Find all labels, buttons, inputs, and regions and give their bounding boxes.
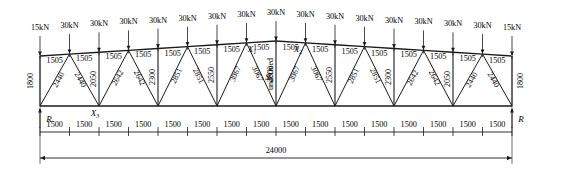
bottom-dimension-label: 1500 bbox=[47, 121, 63, 129]
web-member-label: 2550 bbox=[326, 67, 334, 83]
load-label: 30kN bbox=[414, 18, 432, 26]
load-label: 30kN bbox=[90, 20, 108, 28]
load-label: 30kN bbox=[149, 16, 167, 24]
web-member-label: 2300 bbox=[149, 69, 157, 85]
web-member-label: 2050 bbox=[444, 71, 452, 87]
load-label: 30kN bbox=[326, 13, 344, 21]
end-post-label-right: 1800 bbox=[517, 73, 525, 89]
bottom-dimension-label: 1500 bbox=[430, 121, 446, 129]
top-chord-segment-label: 1505 bbox=[47, 57, 63, 65]
load-label: 30kN bbox=[267, 9, 285, 17]
top-chord-segment-label: 1505 bbox=[165, 49, 181, 57]
load-label: 15kN bbox=[31, 24, 49, 32]
top-chord-segment-label: 1505 bbox=[76, 55, 92, 63]
top-chord-segment-label: 1505 bbox=[224, 46, 240, 54]
load-label: 30kN bbox=[355, 15, 373, 23]
top-chord-segment-label: 1505 bbox=[342, 48, 358, 56]
web-member-label: 2550 bbox=[208, 67, 216, 83]
bottom-dimension-label: 1500 bbox=[489, 121, 505, 129]
load-label: 30kN bbox=[119, 18, 137, 26]
bottom-dimension-label: 1500 bbox=[283, 121, 299, 129]
load-label: 30kN bbox=[444, 20, 462, 28]
top-chord-segment-label: 1505 bbox=[135, 51, 151, 59]
top-chord-segment-label: 1505 bbox=[371, 49, 387, 57]
bottom-dimension-label: 1500 bbox=[253, 121, 269, 129]
total-span-label: 24000 bbox=[266, 147, 286, 155]
web-member-label: 2300 bbox=[385, 69, 393, 85]
bottom-dimension-label: 1500 bbox=[106, 121, 122, 129]
load-label: 30kN bbox=[208, 13, 226, 21]
annotation-x1: X1 bbox=[248, 45, 257, 56]
annotation-x2: X2 bbox=[294, 45, 303, 56]
load-label: 30kN bbox=[385, 16, 403, 24]
top-chord-segment-label: 1505 bbox=[430, 53, 446, 61]
bottom-dimension-label: 1500 bbox=[224, 121, 240, 129]
end-post-label-left: 1800 bbox=[27, 73, 35, 89]
top-chord-segment-label: 1505 bbox=[489, 57, 505, 65]
bottom-dimension-label: 1500 bbox=[165, 121, 181, 129]
bottom-dimension-label: 1500 bbox=[312, 121, 328, 129]
load-label: 30kN bbox=[178, 15, 196, 23]
load-label: 30kN bbox=[60, 22, 78, 30]
load-label: 15kN bbox=[503, 24, 521, 32]
truss-diagram: 15kN30kN30kN30kN30kN30kN30kN30kN30kN30kN… bbox=[0, 0, 565, 174]
bottom-dimension-label: 1500 bbox=[401, 121, 417, 129]
load-label: 30kN bbox=[296, 11, 314, 19]
bottom-dimension-label: 1500 bbox=[76, 121, 92, 129]
load-label: 30kN bbox=[473, 22, 491, 30]
top-chord-segment-label: 1505 bbox=[401, 51, 417, 59]
bottom-dimension-label: 1500 bbox=[194, 121, 210, 129]
web-member-label: 2050 bbox=[90, 71, 98, 87]
reaction-right-label: R bbox=[518, 115, 524, 124]
top-chord-segment-label: 1505 bbox=[460, 55, 476, 63]
bottom-dimension-label: 1500 bbox=[371, 121, 387, 129]
top-chord-segment-label: 1505 bbox=[194, 48, 210, 56]
top-chord-segment-label: 1505 bbox=[106, 53, 122, 61]
bottom-dimension-label: 1500 bbox=[342, 121, 358, 129]
bottom-dimension-label: 1500 bbox=[135, 121, 151, 129]
top-chord-segment-label: 1505 bbox=[312, 46, 328, 54]
annotation-x3: X3 bbox=[91, 109, 100, 120]
annotation-s1: S1 bbox=[265, 73, 273, 84]
load-label: 30kN bbox=[237, 11, 255, 19]
bottom-dimension-label: 1500 bbox=[460, 121, 476, 129]
